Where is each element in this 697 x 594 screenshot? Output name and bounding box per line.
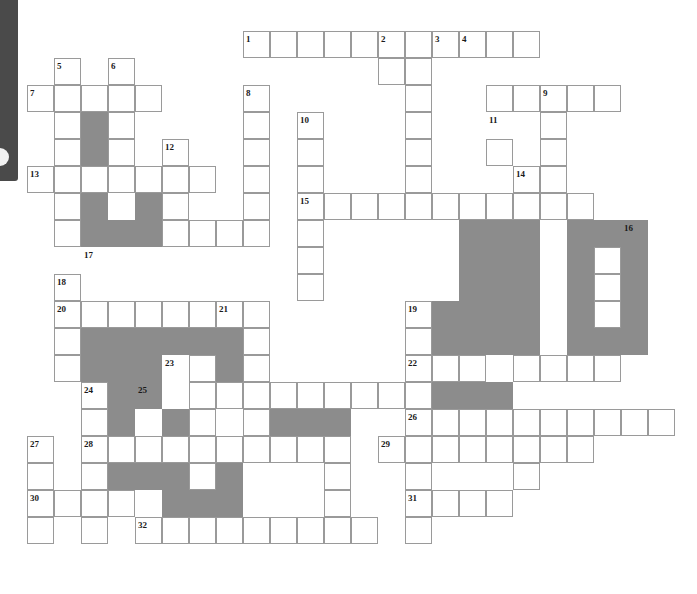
grid-cell[interactable] — [297, 382, 324, 409]
grid-cell[interactable] — [135, 85, 162, 112]
grid-cell[interactable] — [567, 85, 594, 112]
grid-cell[interactable] — [540, 355, 567, 382]
grid-cell[interactable] — [459, 436, 486, 463]
grid-cell[interactable] — [54, 112, 81, 139]
grid-cell[interactable] — [297, 193, 324, 220]
grid-cell[interactable] — [162, 301, 189, 328]
grid-cell[interactable] — [108, 490, 135, 517]
grid-cell[interactable] — [324, 517, 351, 544]
grid-cell[interactable] — [135, 436, 162, 463]
grid-cell[interactable] — [594, 301, 621, 328]
grid-cell[interactable] — [297, 274, 324, 301]
grid-cell[interactable] — [459, 409, 486, 436]
grid-cell[interactable] — [378, 193, 405, 220]
grid-cell[interactable] — [189, 463, 216, 490]
grid-cell[interactable] — [189, 355, 216, 382]
grid-cell[interactable] — [432, 490, 459, 517]
grid-cell[interactable] — [540, 112, 567, 139]
grid-cell[interactable] — [594, 274, 621, 301]
grid-cell[interactable] — [270, 436, 297, 463]
grid-cell[interactable] — [297, 112, 324, 139]
grid-cell[interactable] — [27, 490, 54, 517]
grid-cell[interactable] — [243, 355, 270, 382]
grid-cell[interactable] — [486, 490, 513, 517]
grid-cell[interactable] — [459, 31, 486, 58]
grid-cell[interactable] — [243, 436, 270, 463]
grid-cell[interactable] — [54, 301, 81, 328]
grid-cell[interactable] — [378, 436, 405, 463]
grid-cell[interactable] — [324, 490, 351, 517]
grid-cell[interactable] — [135, 166, 162, 193]
grid-cell[interactable] — [54, 166, 81, 193]
grid-cell[interactable] — [81, 166, 108, 193]
grid-cell[interactable] — [108, 436, 135, 463]
grid-cell[interactable] — [297, 517, 324, 544]
grid-cell[interactable] — [216, 436, 243, 463]
grid-cell[interactable] — [405, 436, 432, 463]
grid-cell[interactable] — [648, 409, 675, 436]
grid-cell[interactable] — [405, 490, 432, 517]
grid-cell[interactable] — [54, 220, 81, 247]
grid-cell[interactable] — [432, 31, 459, 58]
grid-cell[interactable] — [405, 193, 432, 220]
grid-cell[interactable] — [81, 463, 108, 490]
grid-cell[interactable] — [513, 31, 540, 58]
grid-cell[interactable] — [486, 31, 513, 58]
grid-cell[interactable] — [54, 274, 81, 301]
grid-cell[interactable] — [540, 409, 567, 436]
grid-cell[interactable] — [243, 139, 270, 166]
crossword-grid[interactable]: 1234567891011121314151617181920212223242… — [0, 0, 697, 594]
grid-cell[interactable] — [243, 193, 270, 220]
grid-cell[interactable] — [81, 490, 108, 517]
grid-cell[interactable] — [81, 409, 108, 436]
grid-cell[interactable] — [297, 139, 324, 166]
grid-cell[interactable] — [378, 382, 405, 409]
grid-cell[interactable] — [243, 85, 270, 112]
grid-cell[interactable] — [405, 85, 432, 112]
grid-cell[interactable] — [162, 220, 189, 247]
grid-cell[interactable] — [216, 517, 243, 544]
grid-cell[interactable] — [108, 58, 135, 85]
grid-cell[interactable] — [513, 193, 540, 220]
grid-cell[interactable] — [351, 517, 378, 544]
grid-cell[interactable] — [243, 31, 270, 58]
grid-cell[interactable] — [486, 85, 513, 112]
grid-cell[interactable] — [270, 31, 297, 58]
grid-cell[interactable] — [513, 463, 540, 490]
grid-cell[interactable] — [405, 355, 432, 382]
grid-cell[interactable] — [594, 247, 621, 274]
grid-cell[interactable] — [378, 31, 405, 58]
grid-cell[interactable] — [459, 355, 486, 382]
grid-cell[interactable] — [27, 166, 54, 193]
grid-cell[interactable] — [324, 193, 351, 220]
grid-cell[interactable] — [270, 517, 297, 544]
grid-cell[interactable] — [108, 112, 135, 139]
grid-cell[interactable] — [243, 112, 270, 139]
grid-cell[interactable] — [459, 193, 486, 220]
grid-cell[interactable] — [513, 355, 540, 382]
grid-cell[interactable] — [324, 31, 351, 58]
grid-cell[interactable] — [378, 58, 405, 85]
grid-cell[interactable] — [81, 301, 108, 328]
grid-cell[interactable] — [270, 382, 297, 409]
grid-cell[interactable] — [540, 193, 567, 220]
grid-cell[interactable] — [486, 409, 513, 436]
grid-cell[interactable] — [351, 31, 378, 58]
grid-cell[interactable] — [513, 166, 540, 193]
grid-cell[interactable] — [108, 301, 135, 328]
grid-cell[interactable] — [108, 166, 135, 193]
grid-cell[interactable] — [432, 409, 459, 436]
grid-cell[interactable] — [297, 220, 324, 247]
grid-cell[interactable] — [243, 517, 270, 544]
grid-cell[interactable] — [108, 139, 135, 166]
grid-cell[interactable] — [405, 409, 432, 436]
grid-cell[interactable] — [540, 166, 567, 193]
grid-cell[interactable] — [189, 220, 216, 247]
grid-cell[interactable] — [243, 328, 270, 355]
grid-cell[interactable] — [162, 517, 189, 544]
grid-cell[interactable] — [432, 193, 459, 220]
grid-cell[interactable] — [243, 409, 270, 436]
grid-cell[interactable] — [351, 382, 378, 409]
grid-cell[interactable] — [27, 436, 54, 463]
grid-cell[interactable] — [54, 355, 81, 382]
